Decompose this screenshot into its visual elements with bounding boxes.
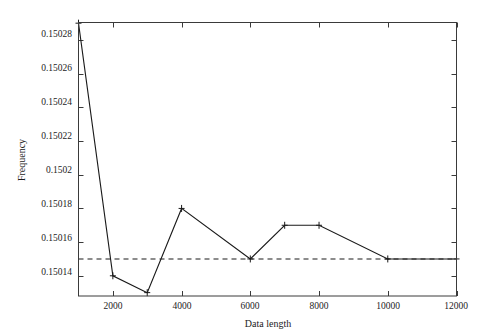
- y-tick-label: 0.15024: [41, 97, 72, 107]
- y-tick-label: 0.15014: [41, 267, 72, 277]
- chart-figure: 0.15014 0.15016 0.15018 0.1502 0.15022 0…: [0, 0, 493, 335]
- chart-background: [0, 0, 493, 335]
- y-axis-title: Frequency: [16, 139, 27, 181]
- x-tick-label: 2000: [104, 301, 123, 311]
- x-tick-label: 12000: [444, 301, 468, 311]
- y-tick-label: 0.15028: [41, 29, 72, 39]
- y-tick-label: 0.15022: [41, 131, 72, 141]
- x-axis-title: Data length: [245, 318, 291, 329]
- x-tick-label: 4000: [173, 301, 192, 311]
- y-tick-label: 0.15016: [41, 233, 72, 243]
- x-tick-label: 10000: [376, 301, 400, 311]
- x-tick-label: 6000: [241, 301, 260, 311]
- y-tick-label: 0.15018: [41, 199, 72, 209]
- y-tick-label: 0.15026: [41, 63, 72, 73]
- x-tick-label: 8000: [310, 301, 329, 311]
- frequency-vs-data-length-line-chart: 0.15014 0.15016 0.15018 0.1502 0.15022 0…: [0, 0, 493, 335]
- y-tick-label: 0.1502: [46, 165, 72, 175]
